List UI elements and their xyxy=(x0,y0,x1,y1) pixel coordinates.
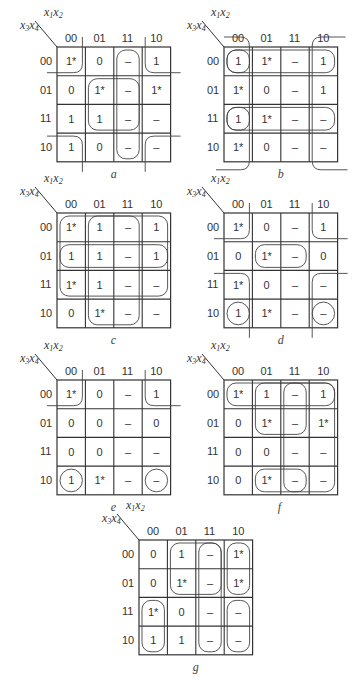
map-cell: 1* xyxy=(167,569,195,598)
map-cell: 0 xyxy=(167,597,195,626)
map-cell: 1* xyxy=(224,569,252,598)
column-header: 10 xyxy=(232,526,244,537)
karnaugh-map-g: x1x2x3x4000111100001111001–1*01*–1*1*0––… xyxy=(0,0,360,688)
row-header: 10 xyxy=(122,635,134,646)
map-cell: 1* xyxy=(224,540,252,569)
map-cell: – xyxy=(196,626,224,655)
map-cell: 1 xyxy=(167,626,195,655)
row-variable-label: x3x4 xyxy=(102,512,121,526)
map-cell: 1* xyxy=(139,597,167,626)
row-header: 00 xyxy=(122,549,134,560)
map-cell: 0 xyxy=(139,569,167,598)
map-cell: – xyxy=(196,597,224,626)
map-cell: 1 xyxy=(139,626,167,655)
col-variable-label: x1x2 xyxy=(126,499,145,513)
column-header: 01 xyxy=(175,526,187,537)
column-header: 00 xyxy=(147,526,159,537)
map-cell: – xyxy=(224,597,252,626)
map-caption: g xyxy=(193,660,199,675)
row-header: 01 xyxy=(122,578,134,589)
row-header: 11 xyxy=(122,606,133,617)
map-cell: – xyxy=(224,626,252,655)
column-header: 11 xyxy=(204,526,215,537)
karnaugh-figure: x1x2x3x400011110000111101*0–101*–1*11––1… xyxy=(0,0,360,688)
map-cell: – xyxy=(196,569,224,598)
map-cell: 1 xyxy=(167,540,195,569)
map-cell: 0 xyxy=(139,540,167,569)
map-cell: – xyxy=(196,540,224,569)
